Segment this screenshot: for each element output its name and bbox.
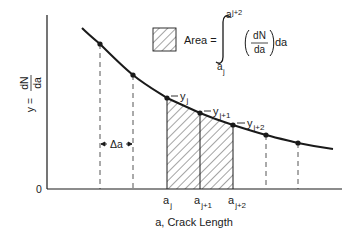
y-j1-label: yj+1 [213, 105, 231, 120]
svg-text:y =: y = [24, 98, 36, 112]
integral-lower-limit: aj [217, 61, 225, 76]
curve-point [97, 41, 102, 46]
y-j-label: yj [180, 90, 189, 105]
curve-point [197, 110, 202, 115]
curve-point [295, 140, 300, 145]
legend-area-text: Area = [184, 34, 217, 46]
crack-growth-diagram: yj yj+1 yj+2 Δa 0 aj aj+1 aj+2 a, Crack … [0, 0, 359, 232]
legend-hatch-swatch [153, 28, 176, 51]
x-axis-title: a, Crack Length [155, 216, 233, 228]
curve-point [230, 122, 235, 127]
a-j-label: aj [163, 194, 172, 210]
a-j2-label: aj+2 [228, 194, 247, 210]
origin-label: 0 [36, 183, 42, 195]
a-j1-label: aj+1 [194, 194, 213, 210]
curve-point [263, 132, 268, 137]
svg-text:da: da [31, 77, 43, 89]
delta-a-label: Δa [110, 138, 123, 150]
curve-point [130, 72, 135, 77]
legend: Area = aj+2 aj dN da da [153, 8, 288, 76]
legend-fraction-numerator: dN [253, 30, 266, 41]
svg-text:dN: dN [18, 76, 30, 89]
curve-point [164, 95, 169, 100]
legend-fraction-denominator: da [254, 44, 266, 55]
y-axis-title: y = dN da [18, 75, 43, 112]
integral-upper-limit: aj+2 [226, 8, 242, 20]
legend-trailing-da: da [275, 36, 288, 48]
integral-sign [216, 16, 230, 63]
